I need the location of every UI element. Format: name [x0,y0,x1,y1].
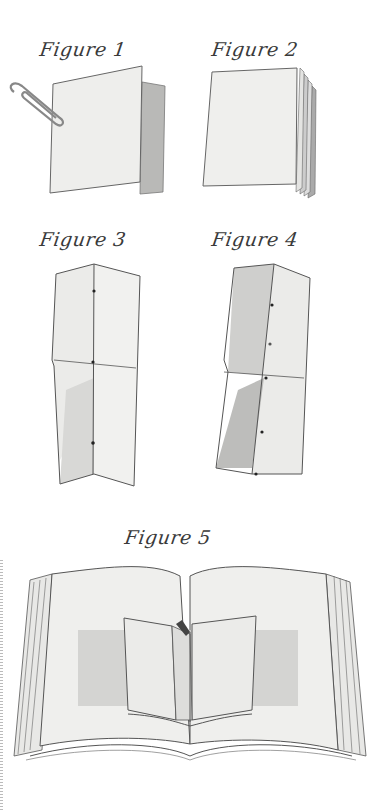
figure-1-folded-sheet [0,60,180,200]
figure-3-caption: Figure 3 [38,228,127,250]
figure-3-folded-strip [0,260,190,490]
figure-4-shaded-strip [200,260,380,490]
figure-2-caption: Figure 2 [210,38,299,60]
figure-5-caption: Figure 5 [123,526,212,548]
figure-4-caption: Figure 4 [210,228,299,250]
figure-1-caption: Figure 1 [38,38,127,60]
figure-2-stack-of-sheets [200,60,380,200]
figure-5-open-book [0,560,380,790]
